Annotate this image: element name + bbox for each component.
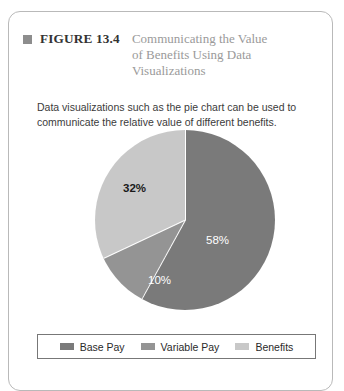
pie-slice-label-variable-pay: 10% bbox=[148, 274, 171, 286]
legend-label: Benefits bbox=[255, 341, 293, 353]
pie-slice-label-benefits: 32% bbox=[123, 182, 146, 194]
figure-number-label: FIGURE 13.4 bbox=[40, 31, 120, 46]
pie-disc bbox=[95, 130, 275, 310]
pie-chart: 58% 10% 32% bbox=[9, 122, 332, 312]
figure-title: Communicating the Value of Benefits Usin… bbox=[132, 31, 280, 79]
legend-label: Base Pay bbox=[80, 341, 125, 353]
legend-item: Base Pay bbox=[60, 341, 125, 353]
chart-legend: Base PayVariable PayBenefits bbox=[37, 334, 316, 359]
pie-slice-divider bbox=[142, 220, 186, 299]
legend-item: Benefits bbox=[235, 341, 293, 353]
legend-swatch-icon bbox=[60, 343, 74, 350]
legend-swatch-icon bbox=[141, 343, 155, 350]
figure-card: FIGURE 13.4 Communicating the Value of B… bbox=[8, 11, 333, 391]
legend-label: Variable Pay bbox=[161, 341, 220, 353]
pie-slice-label-base-pay: 58% bbox=[206, 234, 229, 246]
legend-swatch-icon bbox=[235, 343, 249, 350]
square-bullet-icon bbox=[23, 35, 32, 44]
pie-slice-divider bbox=[185, 130, 186, 220]
figure-header: FIGURE 13.4 Communicating the Value of B… bbox=[23, 31, 320, 79]
legend-item: Variable Pay bbox=[141, 341, 220, 353]
